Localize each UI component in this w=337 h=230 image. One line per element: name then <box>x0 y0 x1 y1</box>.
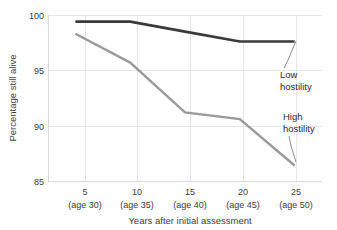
x-tick-sublabel-20: (age 45) <box>226 200 260 210</box>
annotation-high-hostility-line2: hostility <box>283 123 315 134</box>
x-tick-sublabel-10: (age 35) <box>120 200 154 210</box>
y-tick-label-100: 100 <box>29 11 44 21</box>
annotation-high-hostility-line1: High <box>283 111 303 122</box>
annotation-low-hostility-line2: hostility <box>280 81 312 92</box>
x-tick-sublabel-15: (age 40) <box>173 200 207 210</box>
x-tick-label-10: 10 <box>132 187 142 197</box>
line-chart: 100 95 90 85 Percentage still alive 5 (a… <box>0 0 337 230</box>
y-axis-title: Percentage still alive <box>7 54 18 141</box>
x-tick-label-25: 25 <box>291 187 301 197</box>
annotation-low-hostility-line1: Low <box>280 69 298 80</box>
x-tick-label-15: 15 <box>185 187 195 197</box>
y-tick-label-90: 90 <box>34 122 44 132</box>
y-tick-label-85: 85 <box>34 177 44 187</box>
chart-container: 100 95 90 85 Percentage still alive 5 (a… <box>0 0 337 230</box>
x-tick-label-20: 20 <box>238 187 248 197</box>
x-tick-sublabel-25: (age 50) <box>279 200 313 210</box>
x-tick-sublabel-5: (age 30) <box>68 200 102 210</box>
y-tick-label-95: 95 <box>34 66 44 76</box>
x-axis-title: Years after initial assessment <box>128 215 252 226</box>
x-tick-label-5: 5 <box>82 187 87 197</box>
